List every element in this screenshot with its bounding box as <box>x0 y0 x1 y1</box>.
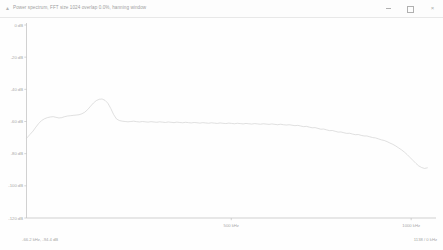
window-title-bar: ▲ Power spectrum, FFT size 1024 overlap … <box>0 0 443 18</box>
spectrum-trace <box>27 99 428 168</box>
x-tick-label: 500 kHz <box>224 223 239 228</box>
maximize-button[interactable] <box>404 3 417 14</box>
minimize-icon <box>386 8 391 9</box>
maximize-icon <box>407 6 414 13</box>
status-bar: -66.2 kHz, -94.4 dB 1138 / 0 kHz <box>0 232 443 250</box>
y-tick-label: -120 dB <box>8 216 23 221</box>
y-tick-label: -60 dB <box>11 119 24 124</box>
close-icon: × <box>431 5 435 11</box>
window-title: Power spectrum, FFT size 1024 overlap 0.… <box>13 4 146 12</box>
minimize-button[interactable] <box>382 3 395 14</box>
y-tick-label: -80 dB <box>11 151 24 156</box>
spectrum-plot[interactable]: 0 dB-20 dB-40 dB-60 dB-80 dB-100 dB-120 … <box>0 17 443 232</box>
chart-icon: ▲ <box>5 5 11 11</box>
close-button[interactable]: × <box>426 3 439 14</box>
spectrum-analyzer-window: ▲ Power spectrum, FFT size 1024 overlap … <box>0 0 443 250</box>
y-tick-label: -20 dB <box>11 55 24 60</box>
y-tick-label: 0 dB <box>14 23 23 28</box>
y-tick-label: -100 dB <box>8 183 23 188</box>
y-tick-label: -40 dB <box>11 87 24 92</box>
y-axis-ticks: 0 dB-20 dB-40 dB-60 dB-80 dB-100 dB-120 … <box>8 23 26 221</box>
range-readout: 1138 / 0 kHz <box>414 236 437 243</box>
spectrum-plot-svg: 0 dB-20 dB-40 dB-60 dB-80 dB-100 dB-120 … <box>0 17 443 232</box>
x-axis-ticks: 500 kHz1000 kHz <box>224 218 420 228</box>
x-tick-label: 1000 kHz <box>402 223 420 228</box>
cursor-readout: -66.2 kHz, -94.4 dB <box>22 236 58 243</box>
